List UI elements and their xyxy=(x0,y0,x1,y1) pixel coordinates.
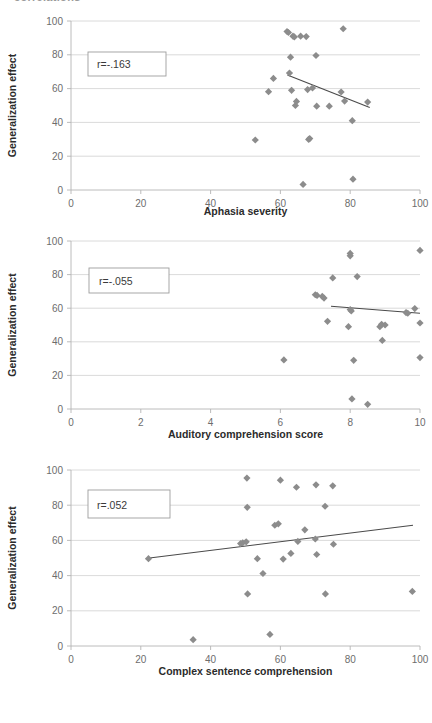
data-point-marker xyxy=(293,484,300,491)
data-point-marker xyxy=(313,103,320,110)
y-tick-label: 0 xyxy=(57,404,63,415)
data-point-marker xyxy=(338,88,345,95)
y-tick-label: 100 xyxy=(46,465,63,476)
data-point-marker xyxy=(312,535,319,542)
correlation-annotation-label: r=.052 xyxy=(97,499,127,511)
x-tick-label: 6 xyxy=(278,417,284,428)
data-point-marker xyxy=(312,481,319,488)
x-tick-label: 8 xyxy=(347,417,353,428)
y-tick-label: 20 xyxy=(52,370,64,381)
x-tick-label: 20 xyxy=(135,198,147,209)
y-tick-label: 60 xyxy=(52,303,64,314)
x-tick-label: 40 xyxy=(205,654,217,665)
data-point-marker xyxy=(416,247,423,254)
x-axis-title: Complex sentence comprehension xyxy=(159,665,333,677)
data-point-marker xyxy=(416,354,423,361)
data-point-marker xyxy=(340,25,347,32)
x-tick-label: 0 xyxy=(68,654,74,665)
y-tick-label: 0 xyxy=(57,185,63,196)
x-tick-label: 4 xyxy=(208,417,214,428)
data-point-marker xyxy=(354,273,361,280)
data-point-marker xyxy=(280,555,287,562)
scatter-chart-2: 020406080100020406080100Generalization e… xyxy=(0,460,432,723)
correlation-annotation-label: r=-.055 xyxy=(99,275,133,287)
x-tick-label: 100 xyxy=(412,198,429,209)
scatter-chart-0: 020406080100020406080100Generalization e… xyxy=(0,10,432,232)
y-tick-label: 20 xyxy=(52,605,64,616)
data-point-marker xyxy=(411,305,418,312)
data-point-marker xyxy=(313,551,320,558)
data-point-marker xyxy=(299,181,306,188)
y-tick-label: 80 xyxy=(52,49,64,60)
y-tick-label: 60 xyxy=(52,83,64,94)
x-tick-label: 80 xyxy=(345,198,357,209)
y-axis-title: Generalization effect xyxy=(6,273,18,377)
data-point-marker xyxy=(252,136,259,143)
figure-page: correlations 020406080100020406080100Gen… xyxy=(0,0,432,723)
y-tick-label: 20 xyxy=(52,151,64,162)
data-point-marker xyxy=(254,555,261,562)
data-point-marker xyxy=(286,69,293,76)
x-tick-label: 60 xyxy=(275,654,287,665)
data-point-marker xyxy=(259,570,266,577)
y-tick-label: 0 xyxy=(57,641,63,652)
figure-heading-cut: correlations xyxy=(14,0,81,2)
data-point-marker xyxy=(280,356,287,363)
data-point-marker xyxy=(287,550,294,557)
data-point-marker xyxy=(301,526,308,533)
data-point-marker xyxy=(145,555,152,562)
data-point-marker xyxy=(303,33,310,40)
data-point-marker xyxy=(329,274,336,281)
y-axis-title: Generalization effect xyxy=(6,506,18,610)
x-tick-label: 2 xyxy=(138,417,144,428)
y-tick-label: 100 xyxy=(46,16,63,27)
data-point-marker xyxy=(329,482,336,489)
chart-auditory-comprehension: 0204060801000246810Generalization effect… xyxy=(0,232,432,460)
data-point-marker xyxy=(364,99,371,106)
data-point-marker xyxy=(350,357,357,364)
data-point-marker xyxy=(349,117,356,124)
y-tick-label: 40 xyxy=(52,336,64,347)
chart-aphasia-severity: 020406080100020406080100Generalization e… xyxy=(0,10,432,232)
data-point-marker xyxy=(288,87,295,94)
data-point-marker xyxy=(416,319,423,326)
data-point-marker xyxy=(244,590,251,597)
data-point-marker xyxy=(322,590,329,597)
data-point-marker xyxy=(409,588,416,595)
x-axis-title: Aphasia severity xyxy=(204,205,288,217)
data-point-marker xyxy=(265,88,272,95)
y-tick-label: 100 xyxy=(46,236,63,247)
y-tick-label: 40 xyxy=(52,117,64,128)
y-axis-title: Generalization effect xyxy=(6,53,18,157)
data-point-marker xyxy=(324,318,331,325)
data-point-marker xyxy=(321,503,328,510)
data-point-marker xyxy=(330,541,337,548)
x-tick-label: 100 xyxy=(412,654,429,665)
x-tick-label: 0 xyxy=(68,417,74,428)
data-point-marker xyxy=(379,337,386,344)
x-tick-label: 0 xyxy=(68,198,74,209)
chart-complex-sentence-comprehension: 020406080100020406080100Generalization e… xyxy=(0,460,432,723)
data-point-marker xyxy=(345,323,352,330)
data-point-marker xyxy=(190,636,197,643)
y-tick-label: 40 xyxy=(52,570,64,581)
x-tick-label: 10 xyxy=(414,417,426,428)
data-point-marker xyxy=(349,176,356,183)
y-tick-label: 60 xyxy=(52,535,64,546)
y-tick-label: 80 xyxy=(52,269,64,280)
correlation-annotation-label: r=-.163 xyxy=(97,58,131,70)
x-tick-label: 20 xyxy=(135,654,147,665)
trendline xyxy=(287,75,369,107)
data-point-marker xyxy=(270,75,277,82)
data-point-marker xyxy=(364,401,371,408)
x-tick-label: 80 xyxy=(345,654,357,665)
data-point-marker xyxy=(243,474,250,481)
x-axis-title: Auditory comprehension score xyxy=(168,428,323,440)
scatter-chart-1: 0204060801000246810Generalization effect… xyxy=(0,232,432,460)
data-point-marker xyxy=(326,103,333,110)
data-point-marker xyxy=(312,52,319,59)
y-tick-label: 80 xyxy=(52,500,64,511)
data-point-marker xyxy=(348,395,355,402)
data-point-marker xyxy=(277,477,284,484)
data-point-marker xyxy=(244,504,251,511)
